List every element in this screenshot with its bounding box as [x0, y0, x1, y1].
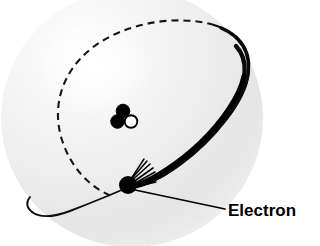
nucleon-open-icon	[125, 115, 138, 128]
sphere-highlight	[38, 18, 154, 118]
electron-dot	[119, 176, 137, 194]
nucleon-left-icon	[111, 115, 125, 129]
electron-label: Electron	[228, 201, 296, 220]
figure-canvas: Electron	[0, 0, 320, 246]
atom-diagram-svg: Electron	[0, 0, 320, 246]
electron-particle	[119, 176, 137, 194]
